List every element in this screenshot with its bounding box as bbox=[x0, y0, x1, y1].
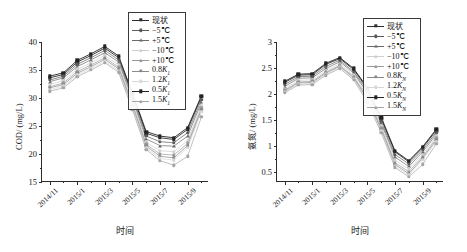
x-tick-label: 2015/1 bbox=[301, 186, 323, 207]
data-point bbox=[379, 115, 382, 118]
x-tick-label: 2015/3 bbox=[328, 186, 350, 207]
legend-item[interactable]: −5℃ bbox=[367, 31, 416, 41]
data-point bbox=[186, 126, 189, 129]
chart-panel-cod: COD/ (mg/L) 1520253035402014/112015/1201… bbox=[0, 0, 233, 252]
legend-item[interactable]: +5℃ bbox=[132, 35, 181, 45]
legend-marker-icon bbox=[367, 22, 384, 31]
x-tick-label: 2015/1 bbox=[66, 186, 88, 207]
data-point bbox=[172, 145, 176, 148]
y-tick-label: 40 bbox=[29, 37, 38, 47]
x-tick-label: 2015/5 bbox=[121, 186, 143, 207]
legend-right: 现状−5℃+5℃−10℃+10℃0.8KN1.2KN0.5KN1.5KN bbox=[363, 18, 421, 116]
data-point bbox=[352, 67, 355, 70]
legend-item[interactable]: 1.5KN bbox=[367, 103, 416, 113]
y-tick-label: 20 bbox=[29, 149, 38, 159]
legend-marker-icon bbox=[132, 36, 149, 45]
data-point bbox=[103, 45, 106, 48]
x-tick-label: 2015/7 bbox=[383, 186, 405, 207]
legend-marker-icon bbox=[132, 46, 149, 55]
legend-label: +5℃ bbox=[387, 42, 405, 51]
dual-line-chart-figure: COD/ (mg/L) 1520253035402014/112015/1201… bbox=[0, 0, 467, 252]
x-tick-label: 2015/3 bbox=[93, 186, 115, 207]
y-tick-label: 1.5 bbox=[261, 115, 272, 125]
y-axis-title-left: COD/ (mg/L) bbox=[14, 103, 24, 150]
x-tick-label: 2015/9 bbox=[411, 186, 433, 207]
chart-panel-ammonia: 氨氮/ (mg/L) 0.511.522.532014/112015/12015… bbox=[233, 0, 467, 252]
legend-item[interactable]: −5℃ bbox=[132, 25, 181, 35]
x-axis-title-left: 时间 bbox=[41, 224, 208, 237]
y-tick-label: 30 bbox=[29, 93, 38, 103]
legend-marker-icon bbox=[367, 93, 384, 102]
legend-label: 1.5KN bbox=[387, 101, 406, 114]
y-axis-title-right: 氨氮/ (mg/L) bbox=[245, 103, 257, 150]
legend-marker-icon bbox=[367, 32, 384, 41]
x-tick-label: 2014/11 bbox=[35, 186, 59, 209]
legend-marker-icon bbox=[132, 16, 149, 25]
legend-label: +5℃ bbox=[152, 36, 170, 45]
legend-item[interactable]: 现状 bbox=[367, 21, 416, 31]
data-point bbox=[48, 74, 51, 77]
legend-marker-icon bbox=[367, 62, 384, 71]
x-tick-label: 2015/9 bbox=[176, 186, 198, 207]
y-tick-label: 0.5 bbox=[261, 167, 272, 177]
legend-marker-icon bbox=[367, 103, 384, 112]
data-point bbox=[172, 136, 175, 139]
data-point bbox=[75, 59, 78, 62]
x-tick-label: 2015/5 bbox=[356, 186, 378, 207]
legend-label: 现状 bbox=[152, 16, 168, 25]
data-point bbox=[186, 135, 190, 138]
y-tick-label: 35 bbox=[29, 65, 38, 75]
legend-label: −10℃ bbox=[387, 52, 409, 61]
data-point bbox=[338, 56, 341, 59]
y-tick-label: 3 bbox=[268, 37, 272, 47]
y-tick-plot-left bbox=[39, 182, 43, 183]
legend-left: 现状−5℃+5℃−10℃+10℃0.8K11.2K10.5K11.5K1 bbox=[128, 12, 186, 110]
data-point bbox=[310, 72, 313, 75]
data-point bbox=[62, 71, 65, 74]
legend-marker-icon bbox=[367, 52, 384, 61]
legend-marker-icon bbox=[367, 83, 384, 92]
legend-label: 现状 bbox=[387, 22, 403, 31]
data-point bbox=[158, 144, 162, 147]
legend-marker-icon bbox=[132, 77, 149, 86]
y-tick-label: 15 bbox=[29, 177, 38, 187]
data-point bbox=[324, 62, 327, 65]
legend-marker-icon bbox=[132, 67, 149, 76]
legend-item[interactable]: 现状 bbox=[132, 15, 181, 25]
data-point bbox=[283, 80, 286, 83]
legend-marker-icon bbox=[367, 42, 384, 51]
legend-marker-icon bbox=[132, 56, 149, 65]
y-tick-label: 2 bbox=[268, 89, 272, 99]
data-point bbox=[297, 72, 300, 75]
data-point bbox=[117, 54, 120, 57]
data-point bbox=[89, 52, 92, 55]
x-axis-title-right: 时间 bbox=[276, 224, 443, 237]
x-tick-label: 2015/7 bbox=[148, 186, 170, 207]
data-point bbox=[393, 149, 396, 152]
legend-item[interactable]: −10℃ bbox=[132, 46, 181, 56]
x-tick-label: 2014/11 bbox=[270, 186, 294, 209]
data-point bbox=[200, 94, 203, 97]
data-point bbox=[144, 130, 147, 133]
legend-marker-icon bbox=[132, 26, 149, 35]
legend-label: −5℃ bbox=[387, 32, 405, 41]
data-point bbox=[435, 127, 438, 130]
y-tick-label: 25 bbox=[29, 121, 38, 131]
y-tick-label: 1 bbox=[268, 141, 272, 151]
legend-marker-icon bbox=[367, 73, 384, 82]
data-point bbox=[407, 159, 410, 162]
y-tick-label: 2.5 bbox=[261, 63, 272, 73]
data-point bbox=[158, 134, 161, 137]
legend-item[interactable]: −10℃ bbox=[367, 52, 416, 62]
legend-marker-icon bbox=[132, 87, 149, 96]
legend-label: −5℃ bbox=[152, 26, 170, 35]
data-point bbox=[421, 145, 424, 148]
legend-item[interactable]: 1.5K1 bbox=[132, 97, 181, 107]
legend-item[interactable]: +5℃ bbox=[367, 41, 416, 51]
legend-label: −10℃ bbox=[152, 46, 174, 55]
legend-marker-icon bbox=[132, 97, 149, 106]
legend-label: 1.5K1 bbox=[152, 95, 170, 108]
